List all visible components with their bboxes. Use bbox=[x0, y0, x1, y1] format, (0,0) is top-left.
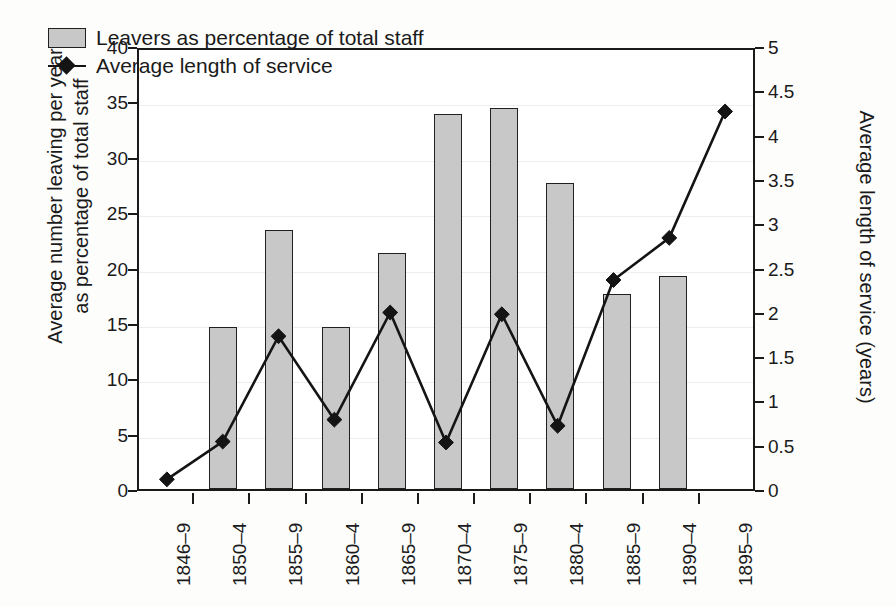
left-axis-tick-mark bbox=[128, 435, 137, 437]
left-axis-tick-mark bbox=[128, 379, 137, 381]
left-axis-tick-label: 20 bbox=[74, 260, 128, 279]
right-axis-tick-label: 3.5 bbox=[768, 171, 828, 190]
chart-figure: Average number leaving per year as perce… bbox=[0, 0, 896, 606]
x-axis-tick-label: 1880–4 bbox=[567, 523, 586, 586]
diamond-marker bbox=[215, 434, 230, 449]
right-axis-tick-label: 3 bbox=[768, 215, 828, 234]
x-axis-tick-label: 1855–9 bbox=[286, 523, 305, 586]
left-axis-tick-label: 5 bbox=[74, 426, 128, 445]
x-axis-tick-label: 1846–9 bbox=[174, 523, 193, 586]
right-axis-tick-mark bbox=[755, 180, 764, 182]
right-axis-tick-mark bbox=[755, 490, 764, 492]
x-axis-tick-mark bbox=[248, 493, 250, 504]
right-axis-tick-mark bbox=[755, 47, 764, 49]
left-axis-tick-label: 35 bbox=[74, 93, 128, 112]
chart-legend: Leavers as percentage of total staff Ave… bbox=[48, 24, 478, 80]
x-axis-tick-label: 1875–9 bbox=[511, 523, 530, 586]
left-axis-tick-mark bbox=[128, 269, 137, 271]
legend-label-line: Average length of service bbox=[96, 54, 333, 78]
legend-diamond-marker bbox=[57, 56, 75, 74]
left-axis-tick-label: 30 bbox=[74, 149, 128, 168]
x-axis-tick-label: 1870–4 bbox=[455, 523, 474, 586]
left-axis-tick-mark bbox=[128, 213, 137, 215]
right-axis-title-container: Average length of service (years) bbox=[838, 0, 896, 520]
left-axis-title-line1: Average number leaving per year bbox=[44, 48, 66, 343]
right-axis-tick-label: 5 bbox=[768, 38, 828, 57]
right-axis-tick-mark bbox=[755, 136, 764, 138]
x-axis-tick-mark bbox=[417, 493, 419, 504]
x-axis-tick-mark bbox=[473, 493, 475, 504]
diamond-marker bbox=[327, 412, 342, 427]
right-axis-tick-label: 2 bbox=[768, 304, 828, 323]
x-axis-tick-mark bbox=[698, 493, 700, 504]
right-axis-tick-mark bbox=[755, 401, 764, 403]
diamond-marker bbox=[383, 305, 398, 320]
x-axis-tick-label: 1860–4 bbox=[343, 523, 362, 586]
diamond-marker bbox=[439, 435, 454, 450]
right-axis-tick-mark bbox=[755, 313, 764, 315]
right-axis-ticks: 00.511.522.533.544.55 bbox=[768, 0, 834, 606]
x-axis-tick-mark bbox=[585, 493, 587, 504]
left-axis-tick-mark bbox=[128, 102, 137, 104]
left-axis-ticks: 0510152025303540 bbox=[66, 0, 128, 606]
left-axis-tick-mark bbox=[128, 490, 137, 492]
x-axis-tick-mark bbox=[642, 493, 644, 504]
right-axis-tick-label: 1.5 bbox=[768, 348, 828, 367]
x-axis-tick-mark bbox=[192, 493, 194, 504]
x-axis-tick-mark bbox=[305, 493, 307, 504]
bar-swatch-icon bbox=[48, 28, 86, 48]
x-axis-tick-label: 1850–4 bbox=[230, 523, 249, 586]
x-axis-tick-label: 1865–9 bbox=[399, 523, 418, 586]
right-axis-title: Average length of service (years) bbox=[855, 57, 879, 457]
x-axis-tick-label: 1890–4 bbox=[680, 523, 699, 586]
plot-area bbox=[137, 48, 755, 491]
right-axis-tick-label: 0.5 bbox=[768, 437, 828, 456]
line-series-layer bbox=[139, 50, 753, 489]
right-axis-tick-mark bbox=[755, 224, 764, 226]
right-axis-tick-label: 2.5 bbox=[768, 260, 828, 279]
right-axis-tick-mark bbox=[755, 446, 764, 448]
right-axis-tick-mark bbox=[755, 269, 764, 271]
diamond-marker bbox=[550, 418, 565, 433]
diamond-marker bbox=[718, 104, 733, 119]
x-axis-tick-label: 1895–9 bbox=[736, 523, 755, 586]
legend-label-bars: Leavers as percentage of total staff bbox=[96, 26, 424, 50]
diamond-marker bbox=[159, 472, 174, 487]
right-axis-tick-label: 1 bbox=[768, 392, 828, 411]
x-axis-tick-label: 1885–9 bbox=[624, 523, 643, 586]
left-axis-tick-label: 0 bbox=[74, 481, 128, 500]
right-axis-tick-label: 4.5 bbox=[768, 82, 828, 101]
x-axis-tick-mark bbox=[361, 493, 363, 504]
left-axis-tick-label: 10 bbox=[74, 370, 128, 389]
left-axis-tick-mark bbox=[128, 324, 137, 326]
line-diamond-icon bbox=[48, 56, 86, 76]
right-axis-tick-mark bbox=[755, 357, 764, 359]
left-axis-tick-mark bbox=[128, 158, 137, 160]
left-axis-tick-label: 25 bbox=[74, 204, 128, 223]
right-axis-tick-label: 0 bbox=[768, 481, 828, 500]
right-axis-tick-mark bbox=[755, 91, 764, 93]
x-axis-tick-mark bbox=[529, 493, 531, 504]
left-axis-tick-label: 15 bbox=[74, 315, 128, 334]
diamond-marker bbox=[271, 329, 286, 344]
legend-item-bars: Leavers as percentage of total staff bbox=[48, 24, 478, 52]
line-path bbox=[167, 111, 725, 479]
diamond-marker bbox=[494, 307, 509, 322]
right-axis-tick-label: 4 bbox=[768, 127, 828, 146]
legend-item-line: Average length of service bbox=[48, 52, 478, 80]
